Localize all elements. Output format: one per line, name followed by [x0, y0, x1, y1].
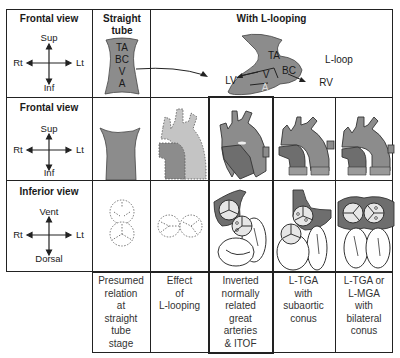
caption-line: & ITOF	[209, 338, 272, 351]
caption-line: arteries	[209, 325, 272, 338]
caption-line: L-looping	[150, 300, 209, 313]
caption-line: relation	[92, 288, 150, 301]
straight-tube-valves-figure	[94, 182, 150, 272]
caption-line: Inverted	[209, 275, 272, 288]
caption-line: bilateral	[335, 313, 393, 326]
caption-line: at	[92, 300, 150, 313]
caption-presumed-relation: Presumed relation at straight tube stage	[92, 275, 150, 351]
caption-line: L-TGA or	[335, 275, 393, 288]
tube-segment-a: A	[108, 78, 136, 89]
caption-line: Presumed	[92, 275, 150, 288]
l-tga-bilateral-conus-figure	[336, 99, 396, 181]
row-label-frontal-view-2: Frontal view	[6, 102, 92, 113]
l-looping-effect-figure	[151, 99, 209, 181]
l-tga-bilateral-valves-figure	[336, 182, 396, 272]
tube-segment-bc: BC	[108, 54, 136, 65]
caption-line: conus	[272, 313, 335, 326]
caption-line: with	[335, 300, 393, 313]
loop-segment-v: V	[259, 69, 273, 80]
column-header-with-l-looping: With L-looping	[150, 13, 393, 24]
caption-line: subaortic	[272, 300, 335, 313]
loop-segment-bc: BC	[279, 65, 299, 76]
loop-segment-ta: TA	[264, 50, 284, 61]
caption-line: of	[150, 288, 209, 301]
caption-line: conus	[335, 325, 393, 338]
tube-segment-ta: TA	[108, 42, 136, 53]
l-looping-valves-figure	[151, 182, 209, 272]
caption-line: tube	[92, 325, 150, 338]
l-loop-label: L-loop	[319, 54, 359, 65]
caption-l-tga-bilateral: L-TGA or L-MGA with bilateral conus	[335, 275, 393, 338]
column-header-straight-tube: Straight tube	[96, 13, 148, 37]
caption-line: straight	[92, 313, 150, 326]
row-label-frontal-view-1: Frontal view	[6, 13, 92, 24]
lv-arrow-label: LV	[223, 75, 239, 86]
four-way-arrow-icon	[9, 123, 89, 193]
caption-l-tga-subaortic: L-TGA with subaortic conus	[272, 275, 335, 325]
inverted-normal-valves-figure	[210, 182, 272, 272]
l-tga-subaortic-figure	[273, 99, 335, 181]
caption-line: related	[209, 300, 272, 313]
straight-outflow-figure	[94, 100, 150, 180]
caption-line: normally	[209, 288, 272, 301]
four-way-arrow-icon	[9, 206, 89, 276]
caption-line: with	[272, 288, 335, 301]
caption-line: great	[209, 313, 272, 326]
inverted-normal-arteries-figure	[210, 99, 272, 181]
loop-segment-a: A	[258, 82, 272, 93]
orientation-compass-frontal-1: Sup Inf Rt Lt	[9, 32, 89, 102]
rv-arrow-label: RV	[318, 77, 334, 88]
orientation-compass-inferior: Vent Dorsal Rt Lt	[9, 206, 89, 276]
caption-line: stage	[92, 338, 150, 351]
four-way-arrow-icon	[9, 32, 89, 102]
caption-line: Effect	[150, 275, 209, 288]
tube-segment-v: V	[108, 66, 136, 77]
orientation-compass-frontal-2: Sup Inf Rt Lt	[9, 123, 89, 193]
caption-effect-of-l-looping: Effect of L-looping	[150, 275, 209, 313]
caption-line: L-TGA	[272, 275, 335, 288]
caption-line: L-MGA	[335, 288, 393, 301]
caption-inverted-normally-related: Inverted normally related great arteries…	[209, 275, 272, 351]
transition-arrow-icon	[136, 64, 216, 84]
l-tga-subaortic-valves-figure	[273, 182, 335, 272]
